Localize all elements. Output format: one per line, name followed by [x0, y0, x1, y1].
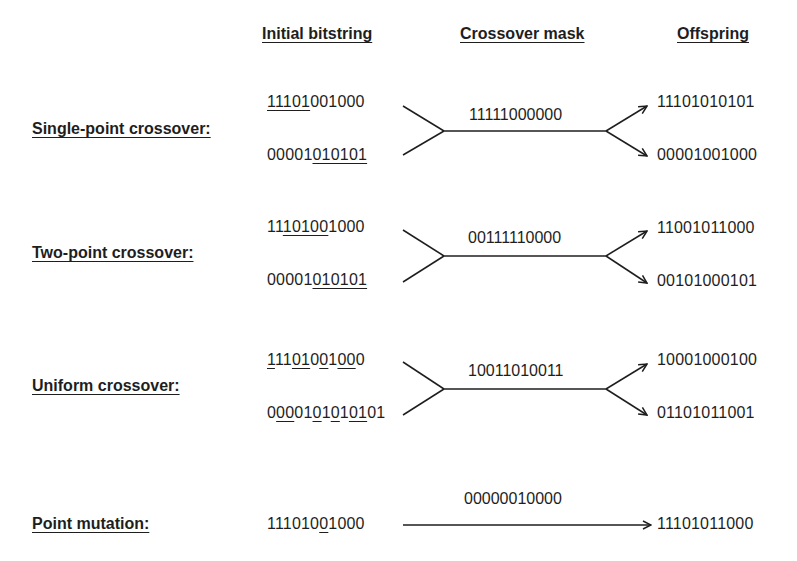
fork-two-point: [403, 230, 647, 283]
connector-lines: [0, 0, 797, 561]
fork-single-point: [403, 106, 647, 156]
fork-uniform: [403, 362, 647, 415]
